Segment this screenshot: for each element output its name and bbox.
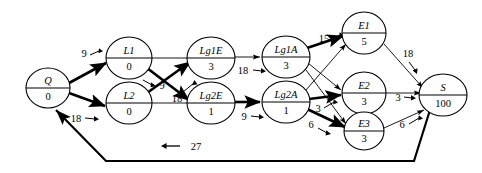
- edge-lg1a-to-e2: [308, 63, 341, 90]
- edge-l2-to-lg1e: [147, 62, 190, 93]
- node-q[interactable]: Q 0: [26, 68, 70, 108]
- node-e1[interactable]: E1 5: [342, 12, 386, 54]
- node-lg2a-value: 1: [283, 105, 288, 116]
- node-e3-value: 3: [361, 133, 366, 144]
- node-l2-label: L2: [122, 90, 135, 101]
- node-lg2e-label: Lg2E: [199, 90, 223, 101]
- edge-label-l2-lg1e-text: 18: [172, 93, 183, 104]
- node-q-value: 0: [45, 91, 50, 102]
- edge-label-l1-lg2e-text: 9: [159, 80, 164, 91]
- edge-label-lg1a-e1-text: 15: [319, 33, 330, 44]
- node-lg1e-value: 3: [208, 61, 213, 72]
- node-e2-value: 3: [361, 96, 366, 107]
- node-s[interactable]: S 100: [419, 74, 467, 116]
- edge-label-return-s-q: 27: [161, 141, 201, 152]
- diagram-canvas: 9 18 9 18 18 9: [0, 0, 482, 173]
- edge-label-e3-s-text: 6: [399, 119, 404, 130]
- edge-label-e3-s: 6: [399, 115, 423, 130]
- node-e3[interactable]: E3 3: [344, 112, 384, 150]
- node-l1[interactable]: L1 0: [106, 37, 152, 79]
- edge-label-return-text: 27: [191, 141, 202, 152]
- edge-label-e2-s-text: 3: [395, 92, 400, 103]
- edge-label-q-l2-text: 18: [71, 113, 82, 124]
- edge-label-lg1e-lg1a: 18: [238, 65, 266, 76]
- node-e1-value: 5: [361, 36, 366, 47]
- node-lg1a[interactable]: Lg1A 3: [262, 36, 310, 78]
- edge-label-lg2e-lg2a-text: 9: [241, 111, 246, 122]
- node-lg2a[interactable]: Lg2A 1: [262, 81, 310, 123]
- edge-label-lg2a-e2-text: 3: [315, 103, 320, 114]
- node-lg2a-label: Lg2A: [274, 89, 298, 100]
- node-q-label: Q: [44, 75, 52, 86]
- edge-l1-to-lg2e: [147, 68, 189, 100]
- node-lg1a-value: 3: [283, 60, 288, 71]
- network-diagram-svg: 9 18 9 18 18 9: [0, 0, 482, 173]
- node-e1-label: E1: [357, 20, 370, 31]
- edge-label-e2-s: 3: [395, 92, 416, 103]
- node-lg1e-label: Lg1E: [199, 45, 223, 56]
- node-l2-value: 0: [126, 106, 131, 117]
- edge-label-e1-s: 18: [403, 48, 418, 74]
- node-e2[interactable]: E2 3: [342, 72, 386, 114]
- node-l1-label: L1: [122, 45, 134, 56]
- node-e2-label: E2: [357, 80, 370, 91]
- node-lg2e[interactable]: Lg2E 1: [187, 82, 235, 124]
- edge-label-q-l2: 18: [71, 113, 99, 124]
- edge-label-q-l1-text: 9: [81, 48, 86, 59]
- edge-label-lg1e-lg1a-text: 18: [238, 65, 249, 76]
- node-l1-value: 0: [126, 61, 131, 72]
- edge-label-e1-s-text: 18: [403, 48, 414, 59]
- node-lg1e[interactable]: Lg1E 3: [187, 37, 235, 79]
- edge-label-lg2a-e3-text: 6: [308, 119, 313, 130]
- node-s-value: 100: [435, 98, 451, 109]
- edge-label-lg2e-lg2a: 9: [241, 111, 264, 122]
- edge-label-lg2a-e2: 3: [315, 99, 338, 114]
- edge-q-to-l2: [69, 93, 105, 106]
- edge-lg2a-to-e1: [306, 44, 346, 90]
- node-lg1a-label: Lg1A: [274, 44, 298, 55]
- node-lg2e-value: 1: [208, 106, 213, 117]
- node-s-label: S: [440, 82, 446, 93]
- edge-label-q-l1: 9: [81, 48, 103, 59]
- edge-q-to-l1: [69, 63, 106, 83]
- edge-label-lg2a-e3: 6: [308, 119, 331, 135]
- node-l2[interactable]: L2 0: [106, 82, 152, 124]
- node-e3-label: E3: [357, 118, 370, 129]
